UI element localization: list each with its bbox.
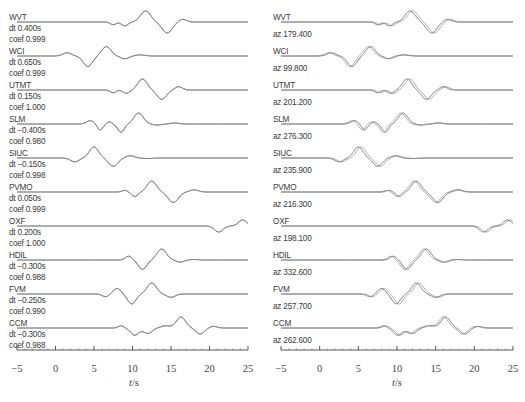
x-tick-label: 20 — [204, 363, 215, 374]
trace-wci-dt: dt 0.650s — [9, 58, 41, 68]
trace-wci-az: az 99.800 — [273, 64, 307, 74]
x-tick-label: 25 — [243, 363, 254, 374]
x-axis-unit: /s — [395, 377, 402, 388]
trace-slm-station: SLM — [9, 115, 25, 125]
x-tick-label: 20 — [469, 363, 480, 374]
trace-slm-station: SLM — [273, 115, 289, 125]
x-tick-label: −5 — [275, 363, 286, 374]
left-x-axis-label: t/s — [129, 377, 139, 388]
trace-pvmo-station: PVMO — [9, 183, 32, 193]
trace-pvmo-coef: coef 0.999 — [9, 205, 45, 215]
waveform-fvm-synthetic — [17, 283, 248, 304]
waveform-wci-observed — [17, 47, 248, 67]
trace-ccm-coef: coef 0.988 — [9, 341, 45, 351]
trace-fvm-coef: coef 0.990 — [9, 307, 45, 317]
waveform-hdil-observed — [17, 249, 248, 269]
trace-siuc-station: SIUC — [9, 149, 28, 159]
trace-wvt-dt: dt 0.400s — [9, 24, 41, 34]
trace-ccm-station: CCM — [9, 319, 27, 329]
trace-hdil-coef: coef 0.988 — [9, 273, 45, 283]
trace-utmt-station: UTMT — [273, 81, 295, 91]
waveform-slm-synthetic — [17, 113, 248, 132]
waveform-fvm-observed — [281, 283, 513, 304]
x-tick-label: 10 — [127, 363, 138, 374]
trace-fvm-station: FVM — [9, 285, 26, 295]
trace-siuc-dt: dt −0.150s — [9, 160, 45, 170]
trace-wvt-station: WVT — [9, 13, 27, 23]
waveform-pvmo-observed — [17, 181, 248, 202]
x-tick-label: −5 — [11, 363, 22, 374]
trace-fvm-az: az 257.700 — [273, 302, 312, 312]
x-tick-label: 0 — [317, 363, 322, 374]
trace-ccm-dt: dt −0.300s — [9, 330, 45, 340]
trace-oxf-az: az 198.100 — [273, 234, 312, 244]
trace-oxf-station: OXF — [9, 217, 25, 227]
trace-slm-coef: coef 0.980 — [9, 137, 45, 147]
waveform-oxf-observed — [17, 220, 248, 232]
trace-fvm-station: FVM — [273, 285, 290, 295]
trace-oxf-station: OXF — [273, 217, 289, 227]
x-tick-label: 0 — [53, 363, 58, 374]
trace-wci-station: WCI — [9, 47, 24, 57]
trace-wvt-coef: coef 0.999 — [9, 35, 45, 45]
waveform-wci-observed — [281, 47, 513, 67]
right-x-axis-label: t/s — [392, 377, 402, 388]
waveform-wvt-observed — [281, 11, 513, 33]
waveform-pvmo-observed — [281, 181, 513, 202]
trace-siuc-coef: coef 0.998 — [9, 171, 45, 181]
trace-siuc-az: az 235.900 — [273, 166, 312, 176]
trace-utmt-dt: dt 0.150s — [9, 92, 41, 102]
waveform-slm-synthetic — [281, 113, 513, 132]
trace-oxf-dt: dt 0.200s — [9, 228, 41, 238]
waveform-utmt-observed — [17, 79, 248, 99]
waveform-wvt-observed — [17, 11, 248, 33]
left-panel-dt-coef: WVTdt 0.400scoef 0.999WCIdt 0.650scoef 0… — [0, 0, 262, 402]
trace-pvmo-az: az 216.300 — [273, 200, 312, 210]
trace-wvt-station: WVT — [273, 13, 291, 23]
trace-wvt-az: az 179.400 — [273, 30, 312, 40]
waveform-fvm-synthetic — [281, 283, 513, 304]
waveform-ccm-observed — [281, 317, 513, 335]
waveform-siuc-observed — [17, 147, 248, 166]
trace-oxf-coef: coef 1.000 — [9, 239, 45, 249]
right-panel-azimuth: WVTaz 179.400WCIaz 99.800UTMTaz 201.200S… — [264, 0, 525, 402]
trace-slm-az: az 276.300 — [273, 132, 312, 142]
waveform-ccm-observed — [17, 317, 248, 335]
x-tick-label: 5 — [356, 363, 361, 374]
trace-ccm-station: CCM — [273, 319, 291, 329]
waveform-oxf-observed — [281, 220, 513, 232]
trace-hdil-station: HDIL — [273, 251, 291, 261]
waveform-siuc-observed — [281, 147, 513, 166]
x-tick-label: 10 — [392, 363, 403, 374]
waveform-utmt-observed — [281, 79, 513, 99]
x-tick-label: 5 — [91, 363, 96, 374]
trace-utmt-az: az 201.200 — [273, 98, 312, 108]
trace-hdil-az: az 332.600 — [273, 268, 312, 278]
trace-pvmo-dt: dt 0.050s — [9, 194, 41, 204]
trace-siuc-station: SIUC — [273, 149, 292, 159]
trace-hdil-dt: dt −0.300s — [9, 262, 45, 272]
trace-utmt-coef: coef 1.000 — [9, 103, 45, 113]
x-tick-label: 25 — [508, 363, 519, 374]
x-tick-label: 15 — [430, 363, 441, 374]
trace-slm-dt: dt −0.400s — [9, 126, 45, 136]
x-axis-unit: /s — [132, 377, 139, 388]
trace-wci-coef: coef 0.999 — [9, 69, 45, 79]
x-tick-label: 15 — [166, 363, 177, 374]
trace-wci-station: WCI — [273, 47, 288, 57]
trace-ccm-az: az 262.600 — [273, 336, 312, 346]
trace-fvm-dt: dt −0.250s — [9, 296, 45, 306]
waveform-slm-observed — [17, 113, 248, 132]
waveform-hdil-observed — [281, 249, 513, 269]
trace-hdil-station: HDIL — [9, 251, 27, 261]
waveform-fvm-observed — [17, 283, 248, 304]
trace-utmt-station: UTMT — [9, 81, 31, 91]
trace-pvmo-station: PVMO — [273, 183, 296, 193]
